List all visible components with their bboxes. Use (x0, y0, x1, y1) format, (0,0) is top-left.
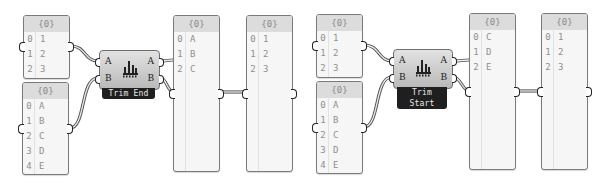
panel-output-b[interactable]: {0} 01 12 23 (246, 15, 293, 172)
row-index: 2 (470, 60, 481, 75)
row-index: 0 (24, 32, 35, 47)
row-index: 0 (23, 99, 34, 114)
trim-start-component[interactable]: A B A B (393, 49, 453, 89)
row-index: 0 (317, 98, 328, 113)
panel-row: 4E (23, 159, 68, 174)
input-grip[interactable] (169, 89, 175, 99)
row-value: 2 (258, 47, 268, 62)
input-pin-a[interactable]: A (105, 56, 112, 66)
input-grip[interactable] (18, 124, 24, 134)
input-grip-b[interactable] (389, 74, 394, 83)
row-index: 1 (470, 45, 481, 60)
input-grip-b[interactable] (95, 75, 100, 84)
panel-input-a[interactable]: {0} 01 12 23 (23, 15, 70, 79)
panel-row: 2C (317, 128, 362, 143)
output-grip[interactable] (514, 87, 520, 97)
panel-row: 12 (24, 47, 69, 62)
row-value: 3 (328, 61, 338, 76)
index-divider (35, 32, 36, 78)
panel-input-b[interactable]: {0} 0A 1B 2C 3D 4E (22, 82, 69, 175)
panel-header: {0} (470, 14, 515, 30)
input-grip[interactable] (312, 123, 318, 133)
row-value: 2 (328, 46, 338, 61)
row-value: B (34, 114, 44, 129)
row-index: 1 (317, 46, 328, 61)
index-divider (481, 30, 482, 169)
index-divider (185, 32, 186, 171)
output-grip[interactable] (291, 89, 297, 99)
output-grip[interactable] (68, 42, 74, 52)
component-label: Trim Start (397, 87, 447, 109)
panel-header: {0} (174, 16, 219, 32)
row-index: 1 (23, 114, 34, 129)
input-grip[interactable] (465, 87, 471, 97)
panel-row: 01 (542, 30, 587, 45)
input-grip[interactable] (537, 87, 543, 97)
input-pin-b[interactable]: B (399, 72, 406, 82)
panel-row: 23 (247, 62, 292, 77)
output-pin-a[interactable]: A (441, 55, 448, 65)
row-index: 4 (23, 159, 34, 174)
row-value: E (34, 159, 44, 174)
row-value: 3 (553, 60, 563, 75)
row-value: E (481, 60, 491, 75)
row-index: 3 (317, 143, 328, 158)
output-grip[interactable] (67, 124, 73, 134)
panel-input-b[interactable]: {0} 0A 1B 2C 3D 4E (316, 81, 363, 174)
panel-row: 23 (317, 61, 362, 76)
panel-row: 4E (317, 158, 362, 173)
row-value: B (328, 113, 338, 128)
row-index: 2 (542, 60, 553, 75)
panel-input-a[interactable]: {0} 01 12 23 (316, 14, 363, 78)
panel-output-a[interactable]: {0} 0A 1B 2C (173, 15, 220, 172)
row-index: 1 (542, 45, 553, 60)
panel-row: 0A (174, 32, 219, 47)
row-index: 0 (247, 32, 258, 47)
index-divider (328, 31, 329, 77)
index-divider (34, 99, 35, 174)
row-index: 2 (174, 62, 185, 77)
input-pin-a[interactable]: A (399, 55, 406, 65)
row-index: 0 (542, 30, 553, 45)
panel-row: 0A (317, 98, 362, 113)
output-grip[interactable] (218, 89, 224, 99)
output-pin-b[interactable]: B (440, 72, 447, 82)
row-value: 2 (35, 47, 45, 62)
panel-row: 23 (542, 60, 587, 75)
trim-end-component[interactable]: A B A B (99, 50, 160, 90)
panel-header: {0} (23, 83, 68, 99)
row-value: 1 (258, 32, 268, 47)
output-pin-b[interactable]: B (147, 73, 154, 83)
panel-header: {0} (317, 82, 362, 98)
input-grip[interactable] (312, 41, 318, 51)
panel-row: 0A (23, 99, 68, 114)
panel-row: 2C (23, 129, 68, 144)
row-value: D (34, 144, 44, 159)
input-grip-a[interactable] (95, 58, 100, 67)
row-index: 1 (174, 47, 185, 62)
row-index: 2 (317, 128, 328, 143)
input-grip[interactable] (242, 89, 248, 99)
row-index: 2 (23, 129, 34, 144)
panel-row: 01 (247, 32, 292, 47)
panel-row: 01 (24, 32, 69, 47)
input-pin-b[interactable]: B (105, 73, 112, 83)
panel-header: {0} (542, 14, 587, 30)
panel-row: 1B (174, 47, 219, 62)
index-divider (328, 98, 329, 173)
panel-output-a[interactable]: {0} 0C 1D 2E (469, 13, 516, 170)
output-grip[interactable] (361, 41, 367, 51)
panel-row: 12 (247, 47, 292, 62)
output-grip[interactable] (586, 87, 592, 97)
row-value: C (328, 128, 338, 143)
row-value: B (185, 47, 195, 62)
row-value: E (328, 158, 338, 173)
panel-output-b[interactable]: {0} 01 12 23 (541, 13, 588, 170)
input-grip-a[interactable] (389, 57, 394, 66)
output-grip[interactable] (361, 123, 367, 133)
row-index: 0 (174, 32, 185, 47)
output-pin-a[interactable]: A (148, 56, 155, 66)
index-divider (553, 30, 554, 169)
input-grip[interactable] (19, 42, 25, 52)
panel-row: 01 (317, 31, 362, 46)
